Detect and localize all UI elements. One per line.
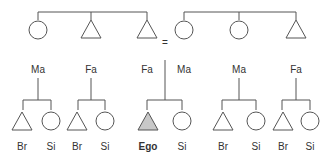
child-label: Br: [218, 141, 228, 152]
parent-fa-2: [137, 20, 157, 38]
kinship-diagram: [0, 0, 333, 156]
child-label: Br: [278, 141, 288, 152]
child-br-4: [273, 112, 293, 130]
parent-ma-1: [29, 21, 47, 39]
child-label: Br: [17, 141, 27, 152]
child-br-1: [12, 112, 32, 130]
parent-fa-3: [286, 20, 306, 38]
child-si-2: [96, 112, 114, 130]
child-br-2: [67, 112, 87, 130]
parent-label: Fa: [290, 64, 302, 75]
child-br-3: [213, 112, 233, 130]
child-label: Si: [252, 141, 261, 152]
child-label: Si: [47, 141, 56, 152]
parent-label: Fa: [141, 64, 153, 75]
parent-fa-1: [81, 20, 101, 38]
child-si-4: [247, 112, 265, 130]
ego-label: Ego: [139, 141, 158, 152]
child-label: Si: [178, 141, 187, 152]
child-si-3: [173, 112, 191, 130]
parent-label: Fa: [85, 64, 97, 75]
child-label: Br: [72, 141, 82, 152]
child-label: Si: [306, 141, 315, 152]
parent-label: Ma: [232, 64, 246, 75]
ego-shape: [138, 112, 158, 130]
parent-ma-2: [175, 21, 193, 39]
parent-label: Ma: [177, 64, 191, 75]
marriage-symbol: =: [162, 37, 168, 48]
child-si-1: [42, 112, 60, 130]
sibling-bracket-right: [184, 12, 296, 20]
parent-label: Ma: [31, 64, 45, 75]
child-si-5: [301, 112, 319, 130]
sibling-bracket-left: [38, 12, 147, 20]
child-label: Si: [101, 141, 110, 152]
parent-ma-3: [230, 21, 248, 39]
